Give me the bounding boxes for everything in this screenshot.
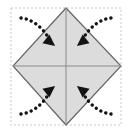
fold-diagram xyxy=(0,0,132,133)
fold-diagram-container xyxy=(0,0,132,133)
